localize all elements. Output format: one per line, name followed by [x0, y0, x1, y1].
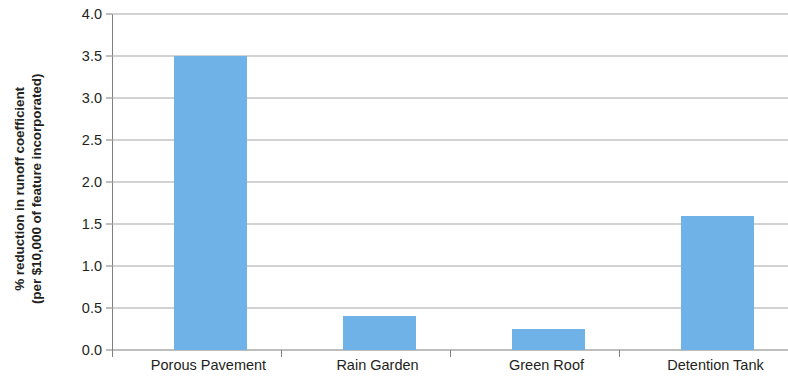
x-axis-category-label: Detention Tank: [667, 357, 763, 373]
y-axis-tick-label: 3.0: [82, 90, 102, 106]
gridline: [112, 14, 788, 15]
x-axis-tick-mark: [281, 350, 282, 357]
y-axis-title: % reduction in runoff coefficient (per $…: [0, 0, 58, 377]
bar: [174, 56, 247, 350]
y-axis-tick-labels: 0.00.51.01.52.02.53.03.54.0: [58, 0, 108, 377]
x-axis-category-label: Green Roof: [509, 357, 584, 373]
x-axis-category-label: Rain Garden: [336, 357, 418, 373]
y-axis-tick-label: 1.0: [82, 258, 102, 274]
x-axis-tick-mark: [112, 350, 113, 357]
bar-chart: % reduction in runoff coefficient (per $…: [0, 0, 788, 377]
y-axis-title-line-1: % reduction in runoff coefficient: [12, 73, 29, 303]
y-axis-tick-label: 3.5: [82, 48, 102, 64]
bar: [343, 316, 416, 350]
y-axis-tick-label: 4.0: [82, 6, 102, 22]
bar: [681, 216, 754, 350]
y-axis-tick-label: 1.5: [82, 216, 102, 232]
y-axis-tick-label: 2.5: [82, 132, 102, 148]
x-axis-tick-mark: [619, 350, 620, 357]
plot-area: [112, 14, 788, 350]
x-axis-category-label: Porous Pavement: [151, 357, 266, 373]
bar: [512, 329, 585, 350]
x-axis-tick-mark: [450, 350, 451, 357]
y-axis-tick-label: 0.0: [82, 342, 102, 358]
y-axis-title-line-2: (per $10,000 of feature incorporated): [29, 73, 46, 303]
y-axis-tick-label: 0.5: [82, 300, 102, 316]
y-axis-tick-label: 2.0: [82, 174, 102, 190]
